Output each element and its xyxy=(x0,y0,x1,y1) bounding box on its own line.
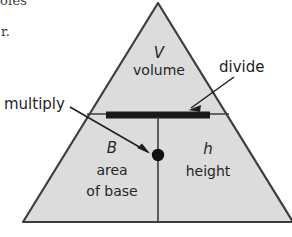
label-height-word: height xyxy=(177,163,239,179)
label-volume-symbol: V xyxy=(139,44,179,62)
label-area-word-line1: area xyxy=(82,162,142,178)
callout-label-multiply: multiply xyxy=(4,95,65,113)
label-volume-word: volume xyxy=(123,62,195,78)
formula-triangle-diagram xyxy=(0,0,292,237)
label-height-symbol: h xyxy=(188,140,228,158)
callout-label-divide: divide xyxy=(219,58,264,76)
multiply-dot xyxy=(152,149,164,161)
page-canvas: oles r. V volume B area of base h height… xyxy=(0,0,292,237)
label-area-symbol: B xyxy=(92,139,132,157)
label-area-word-line2: of base xyxy=(74,183,150,199)
